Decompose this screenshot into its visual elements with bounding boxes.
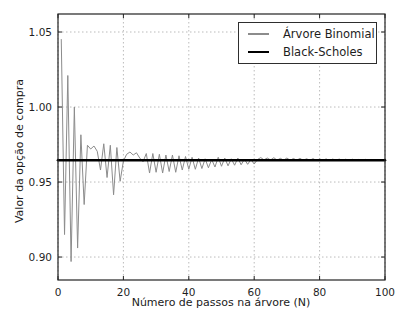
y-tick-label: 1.05 <box>29 26 52 38</box>
y-tick-label: 0.95 <box>29 176 52 188</box>
x-tick-label: 20 <box>117 286 130 298</box>
x-tick-label: 100 <box>375 286 395 298</box>
legend-item-black-scholes: Black-Scholes <box>248 45 376 59</box>
y-tick-label: 0.90 <box>29 251 52 263</box>
binomial-line-sample-icon <box>248 33 269 34</box>
y-axis-label: Valor da opção de compra <box>13 79 26 223</box>
x-tick-label: 80 <box>313 286 326 298</box>
legend-label-binomial: Árvore Binomial <box>283 27 375 41</box>
matplotlib-figure: 0204060801000.900.951.001.05 Número de p… <box>0 0 412 327</box>
black-scholes-line-sample-icon <box>248 51 269 54</box>
legend: Árvore Binomial Black-Scholes <box>238 22 377 64</box>
x-tick-label: 0 <box>55 286 62 298</box>
y-tick-label: 1.00 <box>29 101 52 113</box>
legend-label-black-scholes: Black-Scholes <box>283 45 362 59</box>
binomial-tree-line <box>61 40 385 262</box>
x-axis-label: Número de passos na árvore (N) <box>132 296 311 309</box>
legend-item-binomial: Árvore Binomial <box>248 27 376 41</box>
